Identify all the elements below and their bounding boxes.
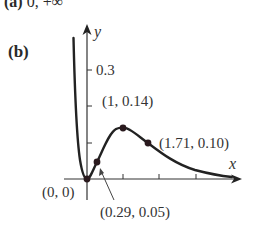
y-ticks xyxy=(87,70,92,143)
function-graph: 0.3 y x (0, 0) (0.29, 0.05) (1, 0.14) (1… xyxy=(0,0,260,234)
annotation-arrow xyxy=(101,171,114,200)
point-inflection-1 xyxy=(94,159,101,166)
point-origin xyxy=(84,176,91,183)
label-maximum: (1, 0.14) xyxy=(102,93,153,110)
x-ticks xyxy=(123,174,196,179)
y-tick-label: 0.3 xyxy=(96,62,115,78)
label-inflection-2: (1.71, 0.10) xyxy=(159,135,229,152)
point-maximum xyxy=(120,125,127,132)
x-axis-label: x xyxy=(228,155,236,172)
point-inflection-2 xyxy=(145,140,152,147)
label-origin: (0, 0) xyxy=(42,184,75,201)
y-axis-label: y xyxy=(92,23,102,41)
label-inflection-1: (0.29, 0.05) xyxy=(100,204,170,221)
